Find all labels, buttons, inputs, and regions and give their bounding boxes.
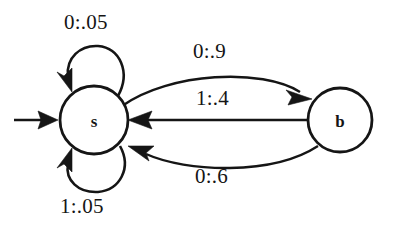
start-arrow: [14, 111, 58, 129]
transition-label-s-to-b: 0:.9: [193, 41, 226, 62]
transition-label-s-self-bottom: 1:.05: [60, 196, 104, 217]
transition-label-s-self-top: 0:.05: [64, 12, 108, 33]
transition-label-b-to-s-mid: 1:.4: [196, 88, 229, 109]
transition-s-self-top-arrowhead: [57, 68, 72, 92]
transition-b-to-s-mid[interactable]: [128, 111, 308, 129]
state-b[interactable]: b: [308, 88, 372, 152]
transition-s-self-bottom-arrowhead: [57, 148, 72, 172]
transition-b-to-s-lower-path: [146, 146, 318, 168]
transition-label-b-to-s-lower: 0:.6: [195, 166, 228, 187]
state-s[interactable]: s: [60, 86, 128, 154]
transition-b-to-s-lower-arrowhead: [128, 146, 154, 161]
start-arrow-head: [38, 111, 58, 129]
state-b-label: b: [335, 112, 344, 131]
fsm-diagram: s b 0:.05 1:.05 0:.9 1:.4 0:.6: [0, 0, 400, 229]
state-s-label: s: [91, 112, 98, 131]
